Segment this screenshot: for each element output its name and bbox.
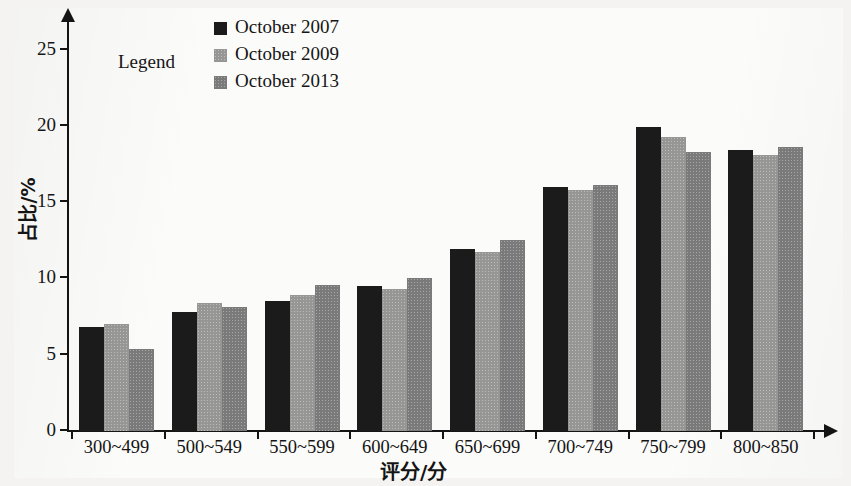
bar (222, 307, 247, 431)
legend-swatch-icon (214, 76, 227, 89)
bar (728, 150, 753, 431)
bar (661, 137, 686, 432)
x-axis-category-label: 800~850 (706, 438, 826, 457)
y-axis-tick-label-text: 10 (20, 267, 56, 286)
y-axis-tick-label-text: 25 (20, 39, 56, 58)
bar (778, 147, 803, 431)
bar (357, 286, 382, 431)
bar (104, 324, 129, 431)
legend-swatch-icon (214, 49, 227, 62)
legend-swatch-icon (214, 22, 227, 35)
chart-page: 占比/% 0510152025 评分/分 300~499500~549550~5… (0, 0, 851, 486)
bar (382, 289, 407, 431)
bar (475, 252, 500, 431)
y-axis-tick-label: 0 (14, 420, 56, 439)
bar (593, 185, 618, 431)
bar (753, 155, 778, 431)
bar (407, 278, 432, 431)
y-axis-tick-label: 20 (14, 115, 56, 134)
bar (79, 327, 104, 431)
bar-group (636, 18, 711, 431)
y-axis-tick-label-text: 0 (20, 420, 56, 439)
legend-entry-label: October 2007 (235, 14, 339, 40)
bar-group (543, 18, 618, 431)
legend-title: Legend (118, 51, 175, 73)
y-axis-tick-label-text: 20 (20, 115, 56, 134)
bar (568, 190, 593, 431)
bar (290, 295, 315, 431)
legend: Legend October 2007October 2009October 2… (118, 14, 358, 100)
bar (129, 349, 154, 431)
y-axis-tick-label: 25 (14, 39, 56, 58)
y-axis-tick-label-text: 15 (20, 191, 56, 210)
bar (543, 187, 568, 431)
bar (172, 312, 197, 431)
bar (500, 240, 525, 431)
bar (686, 152, 711, 431)
bar (265, 301, 290, 431)
y-axis-tick-label: 5 (14, 344, 56, 363)
y-axis-tick-label: 10 (14, 267, 56, 286)
bar-group (728, 18, 803, 431)
bar (315, 285, 340, 431)
bar-group (450, 18, 525, 431)
bar (636, 127, 661, 431)
legend-entry-label: October 2009 (235, 41, 339, 67)
legend-entry-label: October 2013 (235, 68, 339, 94)
bar (450, 249, 475, 431)
bar (197, 303, 222, 431)
bar-group (357, 18, 432, 431)
y-axis-tick-label: 15 (14, 191, 56, 210)
plot-area: 占比/% 0510152025 评分/分 300~499500~549550~5… (0, 0, 851, 486)
x-axis-title: 评分/分 (380, 456, 447, 485)
y-axis-tick-label-text: 5 (20, 344, 56, 363)
